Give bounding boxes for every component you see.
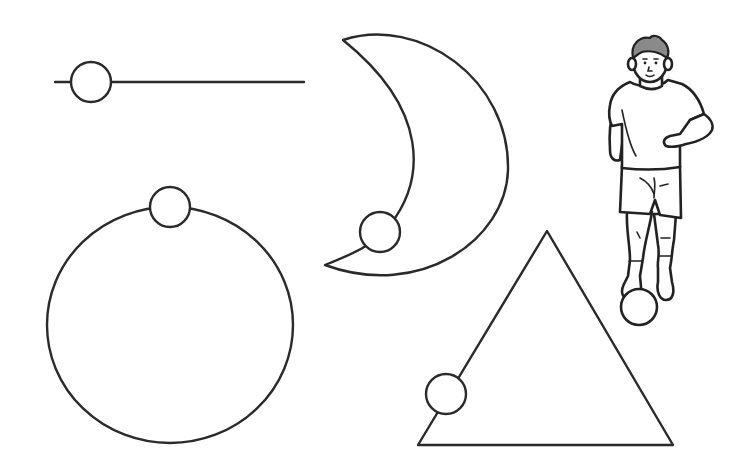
ball-on-triangle bbox=[426, 374, 466, 414]
diagram-canvas: Balls placed on different shapes: a stra… bbox=[0, 0, 750, 473]
ball-on-line bbox=[71, 62, 111, 102]
crescent-figure bbox=[325, 35, 508, 276]
ball-on-circle bbox=[150, 187, 190, 227]
crescent-shape bbox=[325, 35, 508, 276]
boy-eye-right bbox=[655, 62, 658, 65]
shorts-fold-2 bbox=[654, 178, 655, 198]
boy-shorts bbox=[620, 166, 681, 218]
boy-ear-left bbox=[628, 58, 636, 70]
soccer-ball bbox=[621, 289, 657, 325]
large-circle bbox=[47, 207, 293, 443]
line-figure bbox=[55, 62, 304, 102]
boy-ear-right bbox=[664, 58, 672, 70]
boy-right-leg bbox=[654, 214, 676, 300]
boy-figure bbox=[609, 36, 712, 325]
boy-eye-left bbox=[644, 62, 647, 65]
boy-left-leg bbox=[622, 212, 652, 300]
ball-on-crescent bbox=[360, 212, 400, 252]
circle-figure bbox=[47, 187, 293, 443]
